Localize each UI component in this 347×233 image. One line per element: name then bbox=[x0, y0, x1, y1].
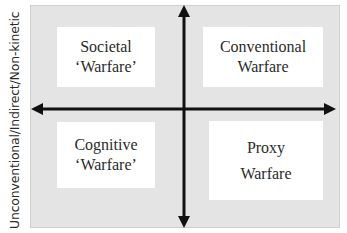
quadrant-societal-warfare: Societal ‘Warfare’ bbox=[57, 27, 155, 87]
y-axis-label: Unconventional/Indirect/Non-kinetic bbox=[3, 0, 27, 233]
quadrant-title-line2: Warfare bbox=[237, 57, 288, 77]
quadrant-title-line2: ‘Warfare’ bbox=[75, 155, 137, 175]
quadrant-title-line2: ‘Warfare’ bbox=[75, 57, 137, 77]
quadrant-title-line1: Proxy bbox=[247, 135, 285, 161]
quadrant-cognitive-warfare: Cognitive ‘Warfare’ bbox=[57, 122, 155, 188]
quadrant-title-line1: Cognitive bbox=[74, 135, 137, 155]
quadrant-title-line2: Warfare bbox=[240, 161, 291, 187]
quadrant-title-line1: Societal bbox=[80, 37, 132, 57]
quadrant-proxy-warfare: Proxy Warfare bbox=[209, 121, 323, 200]
quadrant-conventional-warfare: Conventional Warfare bbox=[203, 27, 323, 87]
quadrant-title-line1: Conventional bbox=[220, 37, 306, 57]
